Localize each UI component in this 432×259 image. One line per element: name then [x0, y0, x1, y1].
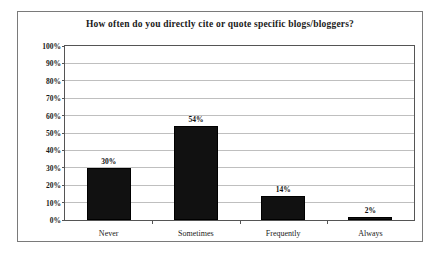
x-axis-category-label: Sometimes — [178, 229, 214, 238]
bar-value-label: 14% — [276, 185, 291, 194]
bar-group: 30% — [65, 46, 152, 220]
x-axis-category-label: Never — [99, 229, 119, 238]
y-axis-tick-label: 90% — [46, 59, 61, 68]
y-axis-tick-label: 30% — [46, 163, 61, 172]
bar-group: 14% — [240, 46, 327, 220]
x-axis-tick-mark — [240, 220, 241, 224]
y-axis-tick-label: 0% — [50, 216, 61, 225]
y-axis-tick-label: 40% — [46, 146, 61, 155]
bar — [174, 126, 218, 220]
bar — [261, 196, 305, 220]
x-axis-tick-mark — [152, 220, 153, 224]
x-axis-category-label: Always — [358, 229, 382, 238]
y-axis-tick-label: 80% — [46, 76, 61, 85]
bar — [348, 217, 392, 220]
y-axis-tick-label: 70% — [46, 94, 61, 103]
chart-title: How often do you directly cite or quote … — [18, 19, 422, 29]
bar — [87, 168, 131, 220]
bar-value-label: 54% — [188, 115, 203, 124]
bar-group: 54% — [152, 46, 239, 220]
bar-group: 2% — [327, 46, 414, 220]
y-axis-tick-label: 50% — [46, 129, 61, 138]
y-axis-tick-label: 100% — [42, 42, 61, 51]
x-axis-category-label: Frequently — [266, 229, 301, 238]
y-axis-tick-label: 20% — [46, 181, 61, 190]
y-axis-tick-label: 10% — [46, 198, 61, 207]
bar-value-label: 2% — [365, 206, 376, 215]
chart-container: How often do you directly cite or quote … — [17, 11, 423, 242]
x-axis-tick-mark — [327, 220, 328, 224]
bar-value-label: 30% — [101, 157, 116, 166]
y-axis-tick-label: 60% — [46, 111, 61, 120]
plot-area: 0%10%20%30%40%50%60%70%80%90%100%30%Neve… — [64, 45, 415, 221]
